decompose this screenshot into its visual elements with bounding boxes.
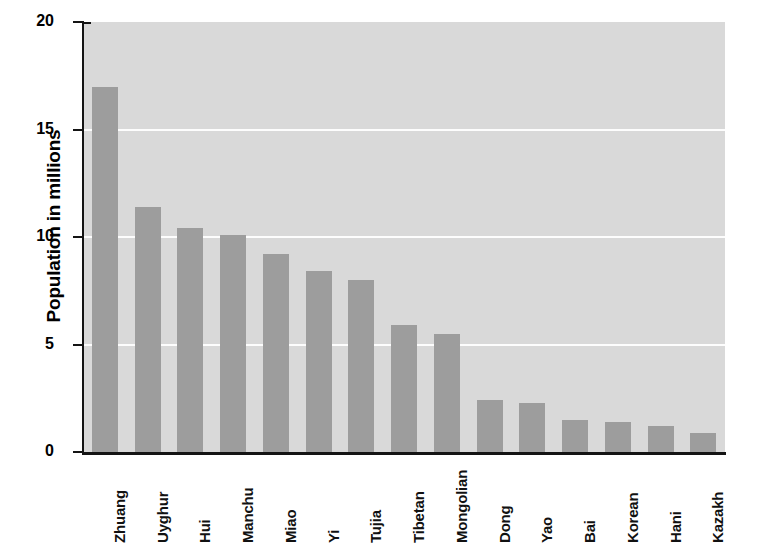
- bar-chart: Population in millions 05101520 ZhuangUy…: [0, 0, 767, 546]
- x-axis-label-mongolian: Mongolian: [453, 423, 470, 543]
- y-tick-mark-5: [73, 344, 84, 346]
- x-axis-label-korean: Korean: [624, 423, 641, 543]
- x-axis-label-dong: Dong: [496, 423, 513, 543]
- y-tick-label-20: 20: [0, 12, 54, 30]
- y-tick-mark-15: [73, 129, 84, 131]
- x-axis-label-hui: Hui: [196, 423, 213, 543]
- bar-uyghur: [135, 207, 161, 452]
- x-axis-label-hani: Hani: [667, 423, 684, 543]
- x-axis-label-tujia: Tujia: [367, 423, 384, 543]
- x-axis-label-tibetan: Tibetan: [410, 423, 427, 543]
- y-tick-label-10: 10: [0, 227, 54, 245]
- x-axis-label-kazakh: Kazakh: [709, 423, 726, 543]
- bar-hui: [177, 228, 203, 452]
- x-axis-label-yi: Yi: [325, 423, 342, 543]
- y-tick-label-0: 0: [0, 442, 54, 460]
- y-tick-mark-0: [73, 451, 84, 453]
- y-tick-mark-20: [73, 21, 84, 23]
- gridline-15: [84, 129, 725, 131]
- y-tick-label-15: 15: [0, 120, 54, 138]
- x-axis-label-bai: Bai: [581, 423, 598, 543]
- x-axis-label-yao: Yao: [538, 423, 555, 543]
- x-axis-label-miao: Miao: [282, 423, 299, 543]
- bar-zhuang: [92, 87, 118, 453]
- bar-manchu: [220, 235, 246, 452]
- x-axis-label-manchu: Manchu: [239, 423, 256, 543]
- x-axis-label-uyghur: Uyghur: [154, 423, 171, 543]
- plot-area: [84, 22, 725, 452]
- chart-title-clipped: [330, 0, 510, 4]
- y-tick-mark-10: [73, 236, 84, 238]
- y-tick-label-5: 5: [0, 335, 54, 353]
- x-axis-label-zhuang: Zhuang: [111, 423, 128, 543]
